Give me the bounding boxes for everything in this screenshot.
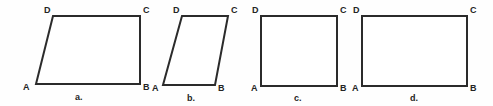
shape-a-vertex-label-a: A <box>23 83 30 92</box>
shape-a-vertex-label-b: B <box>143 83 150 92</box>
shape-c-caption: c. <box>294 94 302 103</box>
shape-d-rectangle <box>362 16 467 86</box>
shape-c-square <box>261 16 337 86</box>
shape-a-vertex-label-d: D <box>44 6 51 15</box>
shape-b-vertex-label-b: B <box>218 84 225 93</box>
shape-b-vertex-label-a: A <box>152 84 159 93</box>
shapes-canvas <box>0 0 493 106</box>
shape-d-vertex-label-a: A <box>352 84 359 93</box>
shape-c-vertex-label-d: D <box>252 6 259 15</box>
shape-b-parallelogram <box>163 16 228 85</box>
shape-b-vertex-label-d: D <box>173 6 180 15</box>
shape-c-vertex-label-a: A <box>251 84 258 93</box>
shape-c-vertex-label-b: B <box>340 84 347 93</box>
shape-a-vertex-label-c: C <box>143 6 150 15</box>
shape-d-vertex-label-d: D <box>353 6 360 15</box>
shape-c-vertex-label-c: C <box>340 6 347 15</box>
shape-a-parallelogram <box>36 16 140 84</box>
shape-b-vertex-label-c: C <box>231 6 238 15</box>
shape-b-caption: b. <box>187 94 195 103</box>
geometry-figure: D C A B a. D C A B b. D C A B c. D C A B… <box>0 0 493 106</box>
shape-a-caption: a. <box>75 93 83 102</box>
shape-d-caption: d. <box>410 94 418 103</box>
shape-d-vertex-label-c: C <box>470 6 477 15</box>
shape-d-vertex-label-b: B <box>470 84 477 93</box>
